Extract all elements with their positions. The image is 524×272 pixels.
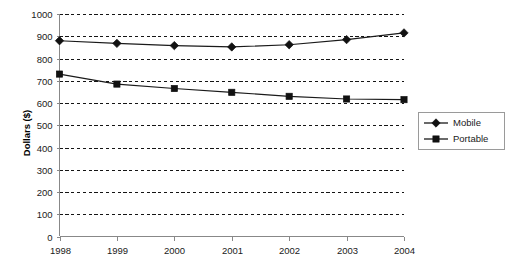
- legend: MobilePortable: [419, 113, 505, 150]
- y-tick-label: 800: [37, 54, 53, 65]
- x-tick-label: 1998: [50, 245, 71, 256]
- y-tick-label: 300: [37, 165, 53, 176]
- data-point: [401, 97, 407, 103]
- y-tick-label: 1000: [31, 9, 52, 20]
- data-point: [286, 93, 292, 99]
- y-axis-title: Dollars ($): [21, 110, 32, 156]
- y-tick-label: 200: [37, 187, 53, 198]
- x-tick-label: 2004: [394, 245, 415, 256]
- data-point: [114, 81, 120, 87]
- data-point: [56, 71, 62, 77]
- data-point: [343, 96, 349, 102]
- legend-label: Mobile: [453, 117, 481, 128]
- y-tick-label: 900: [37, 31, 53, 42]
- y-tick-label: 100: [37, 209, 53, 220]
- y-axis-title-group: Dollars ($): [21, 110, 32, 156]
- y-tick-label: 500: [37, 120, 53, 131]
- y-tick-label: 0: [47, 232, 52, 243]
- legend-label: Portable: [453, 133, 488, 144]
- y-tick-label: 700: [37, 76, 53, 87]
- x-tick-label: 2001: [222, 245, 243, 256]
- x-tick-label: 2000: [164, 245, 185, 256]
- data-point: [171, 85, 177, 91]
- y-tick-label: 600: [37, 98, 53, 109]
- data-point: [229, 89, 235, 95]
- line-chart: Dollars ($) 0100200300400500600700800900…: [0, 0, 524, 272]
- legend-marker-icon: [433, 136, 439, 142]
- x-tick-label: 2002: [279, 245, 300, 256]
- y-tick-label: 400: [37, 143, 53, 154]
- x-tick-label: 1999: [107, 245, 128, 256]
- x-tick-label: 2003: [337, 245, 358, 256]
